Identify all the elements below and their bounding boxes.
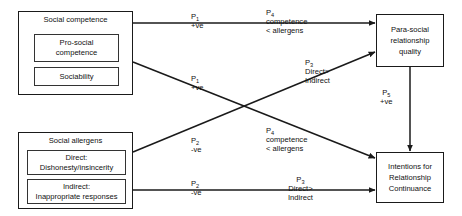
path-label-p3-lower: P3 Direct> Indirect [288,175,313,202]
p3-lower-detail: Direct> [288,184,313,193]
p1-cross-sub: 1 [196,78,199,84]
path-model-diagram: Social competence Pro-social competence … [0,0,462,216]
path-label-p4-top: P4 competence < allergens [266,8,307,35]
path-label-p4-mid: P4 competence < allergens [266,126,307,153]
p3-lower-detail2: Indirect [288,193,313,202]
intentions-line2: Relationship [389,172,431,183]
pro-social-competence-line2: competence [56,48,97,58]
p4-mid-detail: competence [266,135,307,144]
box-social-competence-title: Social competence [19,12,132,24]
p4-mid-sub: 4 [271,130,274,136]
p2-bottom-sub: 2 [196,183,199,189]
intentions-line1: Intentions for [388,161,432,172]
p4-mid-detail2: < allergens [266,144,307,153]
p1-cross-detail: +ve [191,83,203,92]
direct-allergens-line2: Dishonesty/insincerity [40,163,113,173]
box-indirect-allergens: Indirect: Inappropriate responses [27,179,126,204]
box-para-social-relationship-quality: Para-social relationship quality [376,14,444,67]
indirect-allergens-line2: Inappropriate responses [36,192,118,202]
indirect-allergens-line1: Indirect: [63,182,90,192]
box-pro-social-competence: Pro-social competence [34,34,119,62]
p1-top-sub: 1 [196,16,199,22]
p3-upper-sub: 3 [310,62,313,68]
path-label-p5-vertical: P5 +ve [380,88,392,106]
p3-upper-detail2: Indirect [305,76,330,85]
p4-top-sub: 4 [271,12,274,18]
path-label-p2-bottom: P2 -ve [191,179,202,197]
para-social-line1: Para-social [391,24,429,35]
p5-sub: 5 [387,92,390,98]
direct-allergens-line1: Direct: [66,153,88,163]
path-label-p1-cross: P1 +ve [191,74,203,92]
pro-social-competence-line1: Pro-social [60,38,94,48]
path-label-p2-cross: P2 -ve [191,136,202,154]
p2-cross-detail: -ve [191,145,202,154]
box-social-allergens-title: Social allergens [19,133,132,145]
p4-top-detail: competence [266,17,307,26]
p2-cross-sub: 2 [196,140,199,146]
p1-top-detail: +ve [191,21,203,30]
connector-competence-to-intentions [133,62,375,158]
path-label-p1-top: P1 +ve [191,12,203,30]
sociability-line1: Sociability [59,72,93,82]
p3-upper-detail: Direct> [305,67,330,76]
p5-detail: +ve [380,97,392,106]
path-label-p3-upper: P3 Direct> Indirect [305,58,330,85]
connector-allergens-to-parasocial [133,52,375,152]
para-social-line3: quality [399,46,421,57]
p4-top-detail2: < allergens [266,26,307,35]
box-direct-allergens: Direct: Dishonesty/insincerity [27,150,126,175]
box-intentions-for-relationship-continuance: Intentions for Relationship Continuance [376,152,444,203]
p2-bottom-detail: -ve [191,188,202,197]
box-social-competence: Social competence Pro-social competence … [18,11,133,95]
box-sociability: Sociability [34,67,119,86]
para-social-line2: relationship [391,35,430,46]
p3-lower-sub: 3 [301,179,304,185]
box-social-allergens: Social allergens Direct: Dishonesty/insi… [18,132,133,209]
intentions-line3: Continuance [389,183,432,194]
